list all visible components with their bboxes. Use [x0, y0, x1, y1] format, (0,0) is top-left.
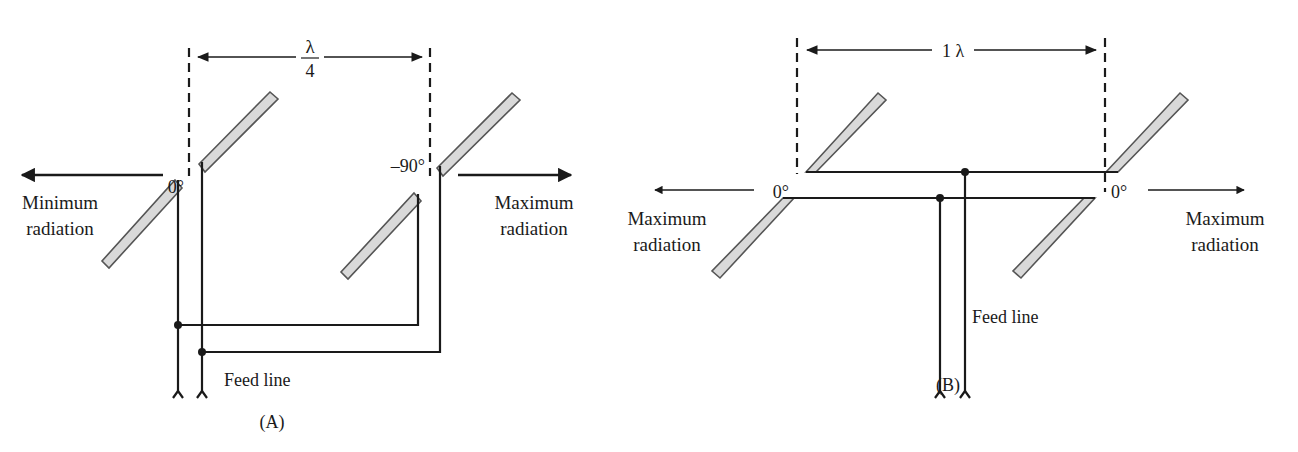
dipole-element-left-upper	[806, 93, 886, 172]
junction-dot	[198, 348, 206, 356]
radiation-label-left-line2: radiation	[633, 234, 701, 255]
radiation-label-right-line1: Maximum	[1185, 208, 1264, 229]
spacing-dimension: λ 4	[198, 36, 422, 81]
panel-a: λ 4 0° –90° Minimum radiation Maximum ra…	[22, 36, 574, 433]
junction-dot	[174, 321, 182, 329]
dipole-element-left-upper	[199, 92, 278, 172]
radiation-label-right-line2: radiation	[500, 218, 568, 239]
dipole-element-right-lower	[341, 193, 421, 279]
dipole-element-right-lower	[1013, 198, 1095, 278]
feed-line-label: Feed line	[224, 370, 290, 390]
antenna-phasing-diagram: λ 4 0° –90° Minimum radiation Maximum ra…	[0, 0, 1298, 452]
phase-label-left: 0°	[773, 182, 789, 202]
feed-terminal-icon	[173, 391, 183, 398]
radiation-label-left-line2: radiation	[26, 218, 94, 239]
phase-label-right: 0°	[1111, 182, 1127, 202]
dipole-element-left-lower	[712, 198, 794, 278]
panel-caption: (A)	[260, 412, 285, 433]
radiation-label-right-line1: Maximum	[494, 192, 573, 213]
spacing-label: 1 λ	[942, 41, 965, 61]
junction-dot	[961, 168, 969, 176]
phasing-line-inner	[178, 194, 418, 325]
feed-line-label: Feed line	[972, 307, 1038, 327]
spacing-denominator: 4	[306, 61, 315, 81]
radiation-label-right-line2: radiation	[1191, 234, 1259, 255]
spacing-dimension: 1 λ	[807, 41, 1096, 61]
feed-terminal-icon	[197, 391, 207, 398]
junction-dot	[936, 194, 944, 202]
radiation-label-left-line1: Maximum	[627, 208, 706, 229]
panel-caption: (B)	[936, 375, 960, 396]
radiation-label-left-line1: Minimum	[22, 192, 98, 213]
feed-terminal-icon	[960, 391, 970, 398]
phase-label-right: –90°	[390, 156, 425, 176]
dipole-element-right-upper	[1106, 93, 1188, 172]
phase-label-left: 0°	[168, 177, 184, 197]
dipole-element-right-upper	[437, 93, 520, 176]
panel-b: 1 λ 0° 0° Maximum radiation Maximum radi…	[627, 38, 1264, 398]
spacing-numerator: λ	[305, 36, 315, 57]
